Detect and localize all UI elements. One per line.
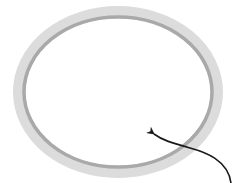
- diagram-svg: [0, 0, 237, 183]
- ring-inner-edge: [24, 17, 212, 167]
- diagram-canvas: [0, 0, 237, 183]
